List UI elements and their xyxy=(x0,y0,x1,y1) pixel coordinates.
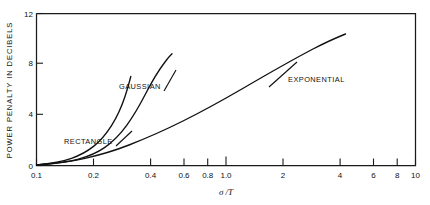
x-tick-label-1.0: 1.0 xyxy=(220,171,232,180)
x-axis-ticks xyxy=(37,157,416,166)
gaussian-leader-line xyxy=(164,70,176,91)
y-tick-label-12: 12 xyxy=(24,10,33,19)
x-tick-label-0.2: 0.2 xyxy=(88,171,100,180)
y-tick-label-8: 8 xyxy=(29,59,34,68)
y-tick-label-0: 0 xyxy=(29,162,34,171)
x-tick-label-0.4: 0.4 xyxy=(145,171,157,180)
x-axis-title: σ /T xyxy=(219,187,234,197)
power-penalty-chart: 12 8 4 0 0.1 0.2 0.4 0.6 0.8 1.0 xyxy=(0,0,430,205)
x-tick-label-0.8: 0.8 xyxy=(202,171,214,180)
curve-rectangle xyxy=(37,77,131,165)
x-tick-label-2: 2 xyxy=(281,171,286,180)
y-tick-label-4: 4 xyxy=(29,110,34,119)
x-tick-label-0.6: 0.6 xyxy=(178,171,190,180)
rectangle-leader-line xyxy=(116,131,132,146)
x-tick-label-0.1: 0.1 xyxy=(31,171,43,180)
y-axis-ticks xyxy=(37,14,44,166)
label-gaussian: GAUSSIAN xyxy=(119,82,161,91)
annotation-leaders xyxy=(116,62,297,146)
y-axis-title: POWER PENALTY IN DECIBELS xyxy=(5,22,14,159)
x-tick-label-6: 6 xyxy=(371,171,376,180)
label-exponential: EXPONENTIAL xyxy=(288,75,345,84)
x-axis-tick-labels: 0.1 0.2 0.4 0.6 0.8 1.0 2 4 6 8 10 xyxy=(31,171,421,180)
curve-gaussian xyxy=(37,54,173,165)
x-tick-label-4: 4 xyxy=(338,171,343,180)
label-rectangle: RECTANGLE xyxy=(64,137,113,146)
y-axis-tick-labels: 12 8 4 0 xyxy=(24,10,33,171)
x-tick-label-10: 10 xyxy=(411,171,420,180)
x-tick-label-8: 8 xyxy=(395,171,400,180)
chart-figure: 12 8 4 0 0.1 0.2 0.4 0.6 0.8 1.0 xyxy=(0,0,430,205)
